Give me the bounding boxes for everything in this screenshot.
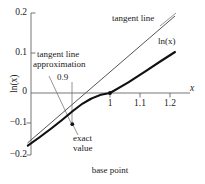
ln-curve-label: ln(x) xyxy=(158,37,176,47)
y-tick-label-0-1: 0.1 xyxy=(2,47,27,57)
point-x-value-label: 0.9 xyxy=(57,73,68,83)
tangent-line-series xyxy=(28,16,176,143)
tangent-line-leader-line xyxy=(160,13,176,26)
x-tick-label-1-2: 1.2 xyxy=(160,98,180,108)
y-tick-label-neg-0-1: −0.1 xyxy=(0,117,27,127)
y-tick-label-neg-0-2: −0.2 xyxy=(0,149,27,159)
x-tick-label-1: 1 xyxy=(103,98,117,108)
exact-value-marker xyxy=(70,122,74,126)
y-axis-label: ln(x) xyxy=(9,75,19,93)
base-point-label: base point xyxy=(62,166,158,176)
tangent-line-label: tangent line xyxy=(112,14,154,24)
x-tick-label-1-1: 1.1 xyxy=(130,98,150,108)
chart-figure: 0.2 0.1 0 −0.1 −0.2 ln(x) 1 1.1 1.2 x 0.… xyxy=(0,0,205,184)
y-tick-label-0-2: 0.2 xyxy=(2,7,27,17)
tangent-approximation-label-line2: approximation xyxy=(33,60,86,70)
base-point-marker xyxy=(108,91,112,95)
x-axis-label: x xyxy=(190,83,194,93)
exact-value-label-line2: value xyxy=(73,144,93,154)
plot-canvas xyxy=(0,0,205,184)
